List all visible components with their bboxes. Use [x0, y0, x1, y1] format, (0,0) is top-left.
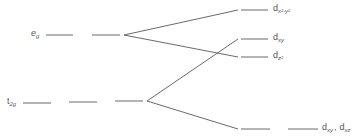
t2g-to-dxy-dxz-connector — [147, 101, 238, 129]
dz2-label-sub: z² — [278, 55, 283, 61]
dxy-dxz-label-sub-2: xz — [345, 127, 351, 133]
eg-to-dz2-connector — [124, 35, 238, 57]
dxy-label: dxy — [273, 33, 284, 43]
splitting-diagram — [0, 0, 363, 138]
t2g-label: t2g — [7, 97, 16, 107]
eg-label: eg — [31, 29, 39, 39]
dxy-dxz-label-separator: , — [334, 122, 337, 132]
dxy-dxz-label: dxy,dxz — [322, 123, 351, 133]
dx2y2-label-sub: x²-y² — [278, 8, 290, 14]
dxy-dxz-label-sub-1: xy — [327, 127, 333, 133]
eg-label-sub: g — [36, 33, 39, 39]
dx2y2-label: dx²-y² — [273, 4, 290, 14]
dz2-label: dz² — [273, 51, 283, 61]
t2g-label-sub: 2g — [10, 101, 17, 107]
eg-to-dx2y2-connector — [124, 10, 238, 35]
dxy-label-sub: xy — [278, 37, 284, 43]
